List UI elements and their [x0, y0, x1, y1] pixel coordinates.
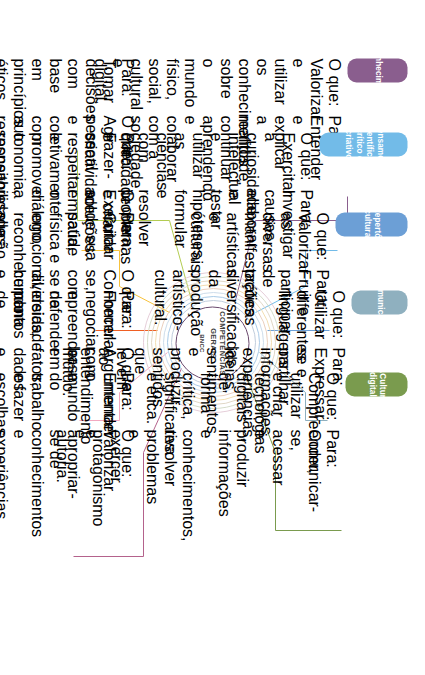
competency-title-4[interactable]: 4.Comunicação	[351, 290, 407, 314]
bncc-competencies-poster: COMPETÊNCIAS GERAIS BNCC 1.Conhecimento …	[0, 0, 425, 675]
competency-title-5[interactable]: 5.Cultura digital	[345, 372, 407, 396]
o-que-label-2: O que:	[297, 132, 314, 180]
o-que-label-5: O que:	[323, 372, 340, 420]
infographic-canvas: COMPETÊNCIAS GERAIS BNCC 1.Conhecimento …	[0, 0, 425, 675]
para-label-9: Para:	[118, 132, 135, 170]
o-que-label-1: O que:	[325, 58, 342, 106]
competency-title-3[interactable]: 3.Repertório cultural	[335, 212, 407, 236]
o-que-label-6: O que:	[118, 429, 135, 477]
para-label-10: Para:	[118, 58, 135, 96]
competency-title-1[interactable]: 1.Conhecimento	[347, 58, 407, 82]
para-label-5: Para:	[323, 429, 340, 467]
competency-card-6[interactable]: Para: Entender o mundo do trabalho e faz…	[0, 372, 135, 481]
para-label-8: Para:	[118, 212, 135, 250]
o-que-label-4: O que:	[329, 290, 346, 338]
para-label-7: Para:	[118, 290, 135, 328]
competency-title-2[interactable]: 2.Pensamento científico, crítico e criat…	[319, 132, 407, 156]
competency-body-6: Para: Entender o mundo do trabalho e faz…	[0, 372, 135, 481]
o-que-label-3: O que:	[313, 212, 330, 260]
para-label-6: Para:	[118, 372, 135, 410]
